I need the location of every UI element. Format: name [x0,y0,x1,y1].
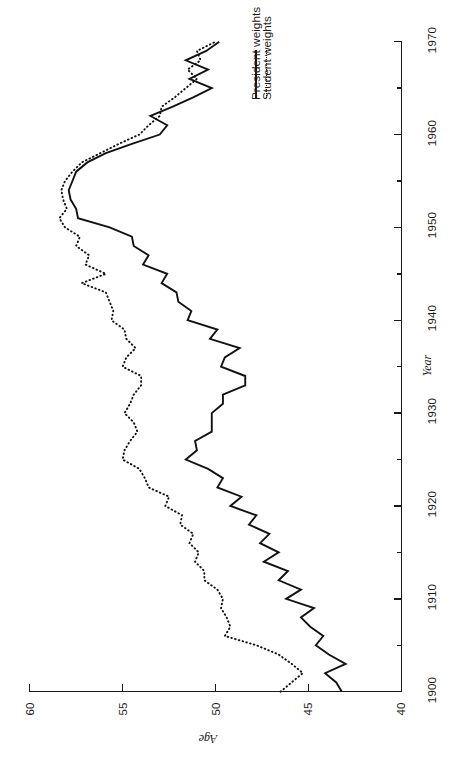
legend-label-student-weights: Student weights [260,16,274,100]
legend: President weights Student weights [213,48,323,188]
chart-canvas: 6055504540 19001910192019301940195019601… [0,0,456,757]
